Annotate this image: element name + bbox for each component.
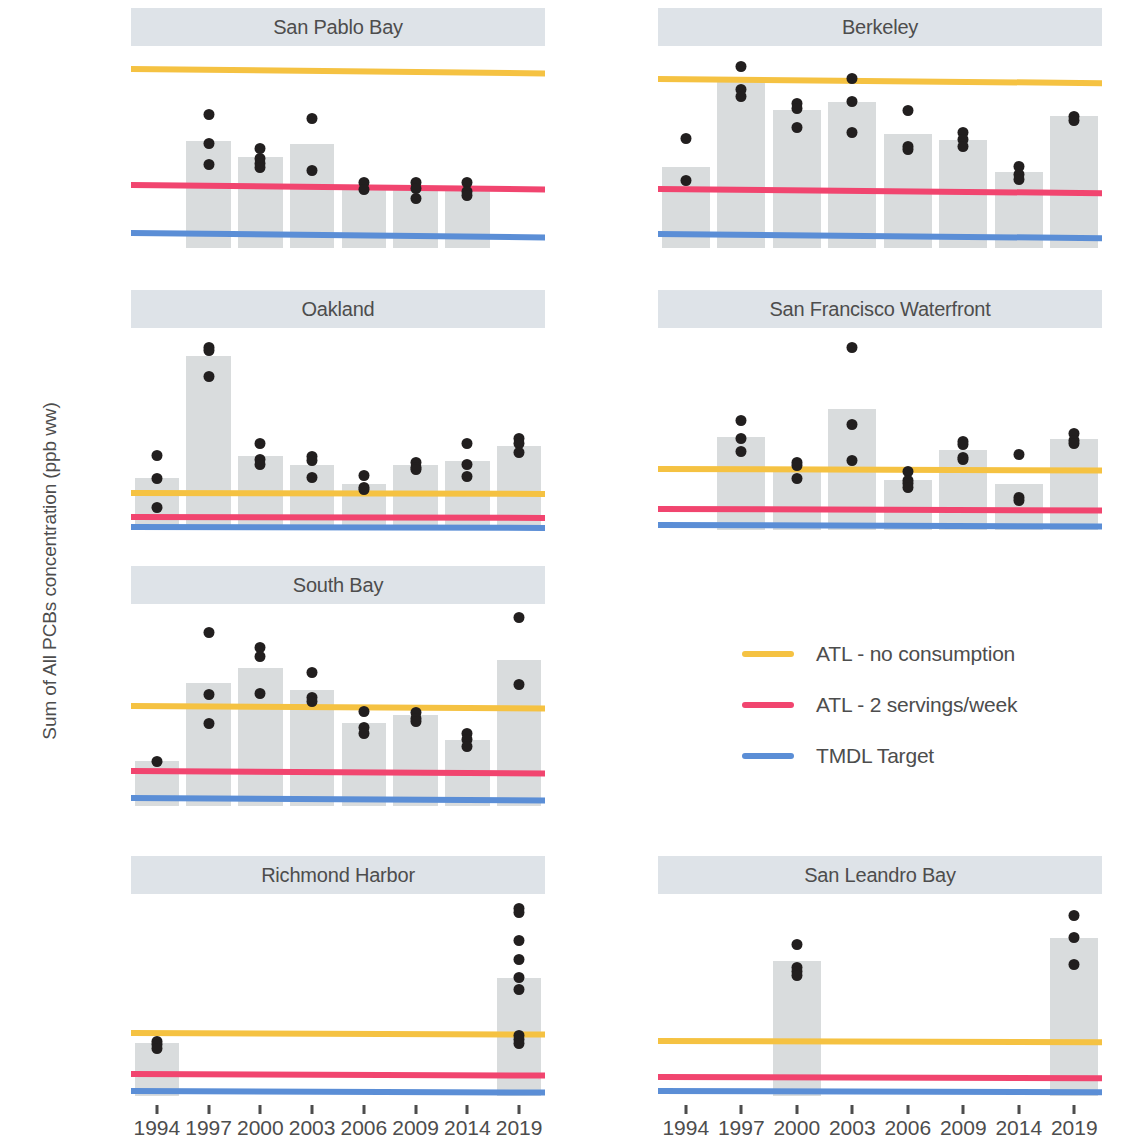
facet-panel-south-bay: South Bay050100150200	[131, 566, 545, 818]
data-point	[410, 716, 421, 727]
facet-strip: San Pablo Bay	[131, 8, 545, 46]
data-point	[680, 133, 691, 144]
data-point	[847, 455, 858, 466]
data-point	[514, 907, 525, 918]
plot-area: 0100200300	[658, 328, 1102, 542]
data-point	[203, 718, 214, 729]
data-point	[307, 113, 318, 124]
data-point	[847, 419, 858, 430]
x-axis-tick-label: 2019	[1051, 1116, 1098, 1139]
data-point	[203, 627, 214, 638]
data-point	[514, 984, 525, 995]
bar	[186, 356, 231, 530]
data-point	[203, 345, 214, 356]
bar	[393, 715, 438, 806]
data-point	[462, 471, 473, 482]
data-point	[1069, 910, 1080, 921]
data-point	[203, 109, 214, 120]
bar	[1050, 439, 1098, 530]
x-axis-tick-label: 2014	[995, 1116, 1042, 1139]
x-axis-tick-label: 2014	[444, 1116, 491, 1139]
x-axis-tick-mark	[518, 1105, 521, 1114]
facet-title: South Bay	[293, 574, 384, 597]
data-point	[462, 438, 473, 449]
data-point	[902, 482, 913, 493]
data-point	[358, 728, 369, 739]
reference-line-atl-2-servings-week	[131, 1071, 545, 1079]
data-point	[307, 165, 318, 176]
facet-title: San Pablo Bay	[273, 16, 403, 39]
data-point	[151, 502, 162, 513]
data-point	[462, 741, 473, 752]
data-point	[410, 193, 421, 204]
reference-line-tmdl-target	[131, 524, 545, 531]
data-point	[203, 689, 214, 700]
x-axis-tick-label: 2009	[940, 1116, 987, 1139]
data-point	[358, 184, 369, 195]
data-point	[307, 472, 318, 483]
x-axis-tick-label: 2000	[237, 1116, 284, 1139]
x-axis-tick-mark	[362, 1105, 365, 1114]
legend-color-swatch	[742, 753, 794, 759]
data-point	[1013, 174, 1024, 185]
data-point	[255, 162, 266, 173]
data-point	[255, 438, 266, 449]
x-axis-tick-mark	[740, 1105, 743, 1114]
facet-title: Berkeley	[842, 16, 918, 39]
x-axis-tick-label: 1994	[134, 1116, 181, 1139]
legend-color-swatch	[742, 651, 794, 657]
data-point	[255, 143, 266, 154]
x-axis-tick-label: 2019	[496, 1116, 543, 1139]
data-point	[151, 1043, 162, 1054]
data-point	[736, 433, 747, 444]
plot-area: 050100	[658, 46, 1102, 260]
x-axis-tick-mark	[1073, 1105, 1076, 1114]
facet-strip: Berkeley	[658, 8, 1102, 46]
legend-label: ATL - no consumption	[816, 642, 1015, 666]
data-point	[151, 450, 162, 461]
bar	[1050, 116, 1098, 248]
data-point	[514, 972, 525, 983]
reference-line-atl-2-servings-week	[658, 1074, 1102, 1081]
data-point	[151, 756, 162, 767]
data-point	[791, 122, 802, 133]
plot-area: 0255075100125	[131, 46, 545, 260]
data-point	[151, 473, 162, 484]
reference-line-atl-no-consumption	[658, 1038, 1102, 1045]
reference-line-atl-2-servings-week	[131, 514, 545, 521]
x-axis-tick-mark	[414, 1105, 417, 1114]
bar	[186, 683, 231, 806]
legend-item: TMDL Target	[742, 730, 1072, 781]
facet-strip: San Leandro Bay	[658, 856, 1102, 894]
bar	[342, 188, 387, 248]
data-point	[1069, 959, 1080, 970]
plot-area: 0200400600	[131, 328, 545, 542]
y-axis-title: Sum of All PCBs concentration (ppb ww)	[39, 291, 61, 851]
reference-line-atl-2-servings-week	[658, 506, 1102, 514]
data-point	[462, 459, 473, 470]
data-point	[958, 141, 969, 152]
facet-panel-berkeley: Berkeley050100	[658, 8, 1102, 260]
x-axis-tick-label: 2006	[341, 1116, 388, 1139]
data-point	[410, 464, 421, 475]
reference-line-tmdl-target	[658, 1088, 1102, 1095]
reference-line-atl-no-consumption	[131, 66, 545, 76]
data-point	[462, 190, 473, 201]
facet-strip: Oakland	[131, 290, 545, 328]
x-axis-tick-label: 2000	[773, 1116, 820, 1139]
facet-panel-san-francisco-waterfront: San Francisco Waterfront0100200300	[658, 290, 1102, 542]
facet-title: Richmond Harbor	[261, 864, 415, 887]
data-point	[847, 127, 858, 138]
data-point	[1069, 438, 1080, 449]
data-point	[791, 939, 802, 950]
data-point	[1013, 449, 1024, 460]
facet-panel-oakland: Oakland0200400600	[131, 290, 545, 542]
x-axis-tick-label: 2003	[829, 1116, 876, 1139]
data-point	[203, 138, 214, 149]
facet-panel-richmond-harbor: Richmond Harbor0100200300	[131, 856, 545, 1108]
x-axis-tick-mark	[466, 1105, 469, 1114]
data-point	[958, 454, 969, 465]
data-point	[736, 446, 747, 457]
data-point	[1013, 495, 1024, 506]
facet-title: San Leandro Bay	[804, 864, 956, 887]
